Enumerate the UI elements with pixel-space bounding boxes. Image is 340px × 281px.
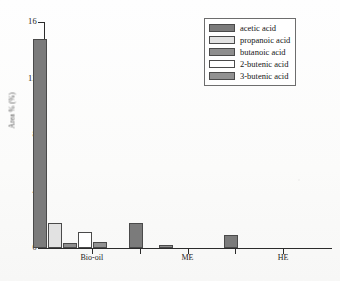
bar <box>159 245 173 248</box>
x-tick-boundary <box>140 249 141 254</box>
bar <box>129 223 143 248</box>
x-tick-label: ME <box>148 254 228 262</box>
bar-chart-figure: Area % (%) 0481216 Bio-oilMEHE acetic ac… <box>0 0 340 281</box>
legend-item: butanoic acid <box>209 46 290 58</box>
legend-item: 3-butenic acid <box>209 70 290 82</box>
y-tick-major <box>38 248 44 249</box>
legend-item: 2-butenic acid <box>209 58 290 70</box>
bar <box>63 243 77 248</box>
legend-item: propanoic acid <box>209 34 290 46</box>
bar <box>224 235 238 248</box>
x-tick-label: Bio-oil <box>52 254 132 262</box>
x-tick-major <box>92 249 93 254</box>
legend-swatch <box>209 60 235 68</box>
legend-swatch <box>209 48 235 56</box>
legend-swatch <box>209 36 235 44</box>
bar <box>33 39 47 248</box>
legend-label: acetic acid <box>240 24 276 33</box>
bar <box>93 242 107 248</box>
x-tick-boundary <box>235 249 236 254</box>
legend-swatch <box>209 72 235 80</box>
bar <box>78 232 92 248</box>
y-tick-label: 16 <box>13 17 37 26</box>
x-tick-major <box>283 249 284 254</box>
x-tick-major <box>188 249 189 254</box>
legend-swatch <box>209 24 235 32</box>
legend-item: acetic acid <box>209 22 290 34</box>
legend-label: 3-butenic acid <box>240 72 288 81</box>
legend-label: 2-butenic acid <box>240 60 288 69</box>
chart-legend: acetic acidpropanoic acidbutanoic acid2-… <box>204 18 296 86</box>
x-tick-label: HE <box>243 254 323 262</box>
legend-label: propanoic acid <box>240 36 290 45</box>
legend-label: butanoic acid <box>240 48 286 57</box>
y-axis-title: Area % (%) <box>8 71 17 151</box>
bar <box>48 223 62 248</box>
